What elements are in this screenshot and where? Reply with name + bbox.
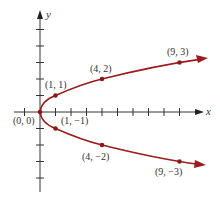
x-axis [14,108,204,116]
label-point-1-1: (1, 1) [45,80,67,90]
label-point-4-2: (4, 2) [90,64,112,74]
curve-upper-arrow-icon [196,55,208,63]
y-axis [36,10,44,192]
label-point-1-neg1: (1, −1) [61,116,88,126]
label-point-4-neg2: (4, −2) [82,152,109,162]
point-4-neg2 [100,143,105,148]
point-1-1 [53,93,58,98]
point-0-0 [38,110,43,115]
label-point-9-neg3: (9, −3) [155,167,182,177]
label-point-0-0: (0, 0) [13,116,35,126]
x-axis-arrow-icon [195,109,204,115]
chart-canvas [0,0,220,216]
parabola-chart: y x (0, 0) (1, 1) (4, 2) (9, 3) (1, −1) … [0,0,220,216]
point-9-neg3 [177,159,182,164]
point-9-3 [177,60,182,65]
x-axis-label: x [206,106,211,117]
point-1-neg1 [53,126,58,131]
curve-lower-arrow-icon [194,160,206,168]
y-axis-arrow-icon [37,10,43,19]
label-point-9-3: (9, 3) [167,47,189,57]
point-4-2 [100,77,105,82]
y-axis-label: y [46,9,51,20]
